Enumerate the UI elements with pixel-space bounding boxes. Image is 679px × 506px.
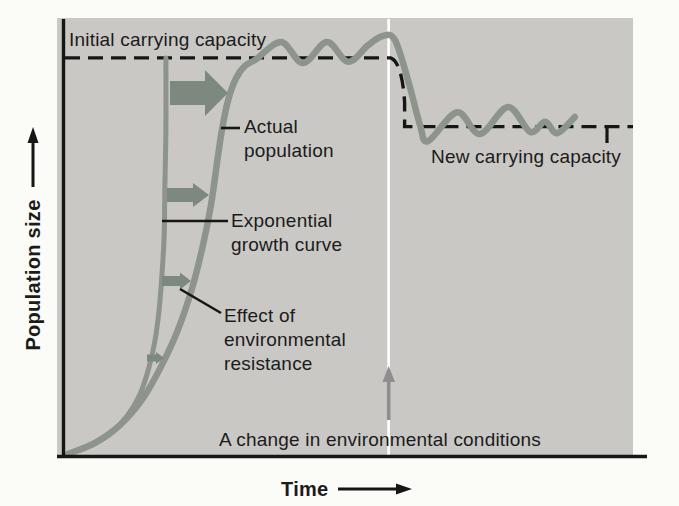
change-conditions-label: A change in environmental conditions bbox=[219, 428, 541, 452]
exponential-curve bbox=[68, 58, 166, 454]
carrying-capacity-dashline bbox=[65, 58, 633, 127]
time-arrow-icon bbox=[338, 481, 414, 497]
x-axis-title-text: Time bbox=[281, 478, 329, 501]
x-axis-title: Time bbox=[281, 477, 414, 501]
initial-capacity-label: Initial carrying capacity bbox=[69, 28, 266, 52]
change-up-arrow-icon bbox=[383, 366, 396, 420]
y-axis-arrow-icon bbox=[25, 125, 41, 189]
resistance-arrow-large-icon bbox=[170, 70, 228, 116]
actual-population-label: Actual population bbox=[244, 115, 334, 163]
resistance-arrow-small-icon bbox=[162, 273, 191, 290]
y-axis-title-text: Population size bbox=[22, 199, 45, 350]
effect-resistance-label: Effect of environmental resistance bbox=[224, 304, 346, 376]
figure-canvas: Initial carrying capacity Actual populat… bbox=[0, 0, 679, 506]
exponential-growth-label: Exponential growth curve bbox=[231, 209, 342, 257]
new-capacity-label: New carrying capacity bbox=[431, 145, 621, 169]
resistance-arrow-medium-icon bbox=[167, 183, 209, 207]
y-axis-title: Population size bbox=[19, 110, 47, 366]
